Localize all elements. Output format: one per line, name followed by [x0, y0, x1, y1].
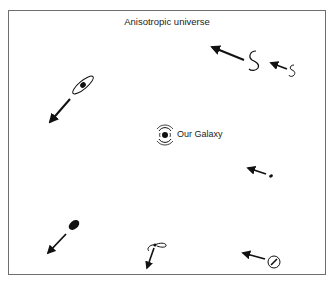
- small-galaxy-right: [248, 168, 273, 178]
- spiral-galaxy-upper-right: [212, 47, 259, 70]
- spiral-galaxy-small-far-right: [271, 63, 295, 76]
- face-on-galaxy-lower-right: [243, 253, 280, 268]
- elliptical-galaxy-lower-left: [48, 218, 81, 253]
- diagram-canvas: [0, 0, 334, 282]
- our-galaxy-label: Our Galaxy: [177, 129, 223, 139]
- spiral-galaxy-lower-middle: [147, 243, 166, 268]
- ring-galaxy-upper-left: [50, 74, 96, 122]
- our-galaxy-icon: [157, 125, 173, 145]
